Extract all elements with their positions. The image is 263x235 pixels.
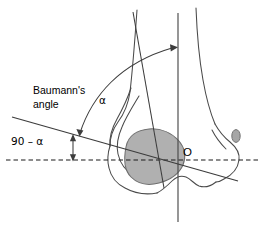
alpha-arc-arrowhead-icon — [170, 44, 178, 51]
lateral-epicondyle-oval — [232, 130, 240, 143]
ninety-minus-alpha-label: 90 – α — [11, 135, 43, 147]
baumanns-physeal-line — [12, 117, 238, 181]
origin-point-label: O — [183, 146, 192, 158]
alpha-angle-label: α — [99, 94, 106, 106]
alpha-angle-arc — [80, 48, 172, 133]
baumanns-angle-label-line2: angle — [33, 98, 59, 110]
baumanns-angle-figure: Baumann's angle α 90 – α O — [0, 0, 263, 235]
baumanns-angle-label-line1: Baumann's — [33, 84, 85, 96]
